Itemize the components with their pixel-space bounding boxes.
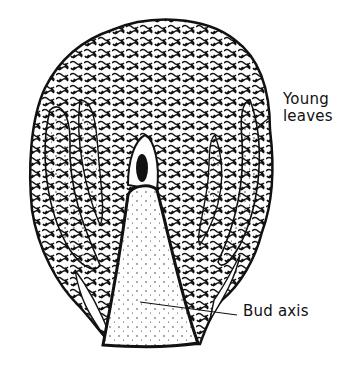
bud-axis-label: Bud axis	[243, 303, 309, 320]
young-leaves-label: Young leaves	[283, 91, 349, 125]
young-leaves-label-line1: Young	[283, 91, 349, 108]
young-leaves-label-line2: leaves	[283, 108, 349, 125]
